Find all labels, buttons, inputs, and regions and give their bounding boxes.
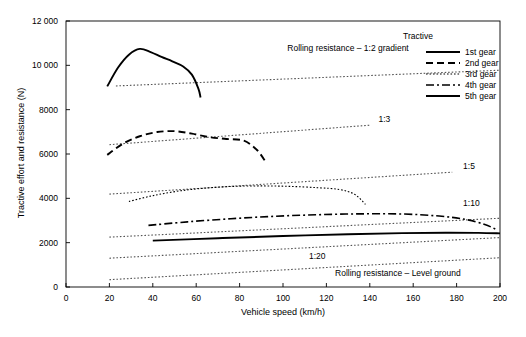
x-tick-label: 0 (46, 293, 86, 303)
resistance-line-1 (109, 125, 369, 145)
x-tick-label: 20 (89, 293, 129, 303)
legend-items: 1st gear2nd gear3rd gear4th gear5th gear (398, 46, 502, 101)
y-tick-label: 12 000 (0, 16, 58, 26)
y-axis-title: Tractive effort and resistance (N) (16, 53, 26, 253)
legend-item-label: 5th gear (465, 91, 496, 101)
legend-line-sample (426, 69, 460, 79)
gear-curve-1 (107, 49, 200, 98)
legend-item-label: 1st gear (465, 47, 496, 57)
y-tick-label: 4000 (0, 193, 58, 203)
y-tick-label: 0 (0, 282, 58, 292)
gear-curve-5 (153, 233, 500, 241)
legend-item-label: 2nd gear (465, 58, 499, 68)
annotation-label: 1:5 (463, 161, 475, 171)
x-tick-label: 40 (133, 293, 173, 303)
gear-curve-3 (129, 186, 366, 204)
gear-curve-4 (148, 214, 497, 230)
gear-curve-2 (107, 131, 265, 162)
y-tick-label: 10 000 (0, 60, 58, 70)
x-tick-label: 60 (176, 293, 216, 303)
annotation-label: 1:10 (463, 198, 480, 208)
legend: Tractive 1st gear2nd gear3rd gear4th gea… (398, 31, 502, 101)
figure-tractive-effort: 0200040006000800010 00012 000 0204060801… (0, 0, 526, 337)
x-axis-title: Vehicle speed (km/h) (66, 307, 500, 317)
legend-item-1: 1st gear (426, 46, 502, 57)
legend-item-4: 4th gear (426, 79, 502, 90)
annotation-label: Rolling resistance – 1:2 gradient (287, 43, 408, 53)
y-tick-label: 8000 (0, 105, 58, 115)
resistance-line-3 (109, 218, 500, 237)
legend-title: Tractive (403, 31, 502, 41)
x-tick-label: 180 (437, 293, 477, 303)
annotation-label: 1:3 (379, 114, 391, 124)
legend-item-label: 4th gear (465, 80, 496, 90)
legend-item-label: 3rd gear (465, 69, 497, 79)
legend-item-2: 2nd gear (426, 57, 502, 68)
annotation-label: 1:20 (309, 251, 326, 261)
x-tick-label: 200 (480, 293, 520, 303)
x-tick-label: 100 (263, 293, 303, 303)
legend-item-5: 5th gear (426, 90, 502, 101)
legend-item-3: 3rd gear (426, 68, 502, 79)
x-tick-label: 120 (306, 293, 346, 303)
y-tick-label: 2000 (0, 238, 58, 248)
legend-line-sample (426, 58, 460, 68)
x-tick-label: 140 (350, 293, 390, 303)
x-tick-label: 160 (393, 293, 433, 303)
legend-line-sample (426, 80, 460, 90)
annotation-label: Rolling resistance – Level ground (335, 268, 461, 278)
resistance-lines-layer (109, 70, 500, 279)
figure-caption (66, 329, 396, 337)
y-tick-label: 6000 (0, 149, 58, 159)
legend-line-sample (426, 91, 460, 101)
resistance-line-2 (109, 172, 452, 194)
x-tick-label: 80 (220, 293, 260, 303)
legend-line-sample (426, 47, 460, 57)
